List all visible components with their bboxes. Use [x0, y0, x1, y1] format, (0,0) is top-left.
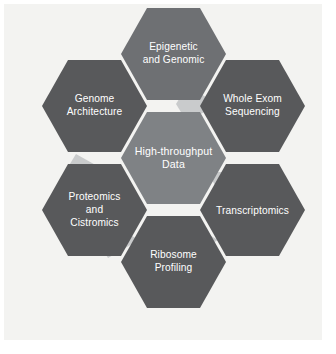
- hex-label-epigenetic-and-genomic-line2: and Genomic: [143, 54, 205, 65]
- hex-node-whole-exom-sequencing[interactable]: Whole Exom Sequencing: [200, 60, 305, 152]
- diagram-panel: Epigenetic and Genomic Genome Architectu…: [4, 4, 322, 340]
- hex-label-genome-architecture-line2: Architecture: [67, 106, 123, 117]
- hex-label-proteomics-and-cistromics-line1: Proteomics: [69, 191, 121, 202]
- hex-label-high-throughput-data-line2: Data: [162, 158, 185, 170]
- hex-label-whole-exom-sequencing-line2: Sequencing: [225, 106, 280, 117]
- hexagon-diagram: Epigenetic and Genomic Genome Architectu…: [4, 4, 322, 340]
- hex-node-genome-architecture[interactable]: Genome Architecture: [42, 60, 147, 152]
- hex-node-ribosome-profiling[interactable]: Ribosome Profiling: [121, 216, 226, 308]
- hex-label-genome-architecture-line1: Genome: [75, 93, 115, 104]
- hex-label-proteomics-and-cistromics-line3: Cistromics: [70, 217, 119, 228]
- hex-label-high-throughput-data-line1: High-throughput: [135, 145, 212, 157]
- figure-root: Epigenetic and Genomic Genome Architectu…: [0, 0, 336, 354]
- hex-label-whole-exom-sequencing-line1: Whole Exom: [223, 93, 282, 104]
- hex-label-proteomics-and-cistromics-line2: and: [86, 204, 104, 215]
- hex-label-ribosome-profiling-line1: Ribosome: [150, 249, 197, 260]
- hex-node-epigenetic-and-genomic[interactable]: Epigenetic and Genomic: [121, 8, 226, 100]
- hex-label-transcriptomics-line1: Transcriptomics: [216, 205, 289, 216]
- hex-node-high-throughput-data[interactable]: High-throughput Data: [121, 112, 226, 204]
- hex-label-ribosome-profiling-line2: Profiling: [155, 262, 193, 273]
- hex-label-epigenetic-and-genomic-line1: Epigenetic: [149, 41, 198, 52]
